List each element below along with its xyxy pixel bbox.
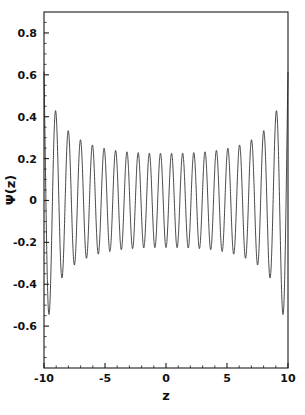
figure-container: 0.80.60.40.20-0.2-0.4-0.6 -10-50510 z Ψ(… (0, 0, 305, 415)
y-tick-label: -0.2 (13, 236, 37, 249)
x-tick-label: 0 (162, 372, 170, 385)
y-tick-label: 0.8 (18, 27, 38, 40)
y-tick-label: 0 (29, 194, 37, 207)
x-tick-label: 10 (280, 372, 296, 385)
y-tick-label: -0.6 (13, 320, 37, 333)
x-tick-label: -10 (34, 372, 54, 385)
x-axis-title: z (162, 388, 170, 403)
y-axis-title: Ψ(z) (3, 175, 18, 206)
x-tick-label: -5 (99, 372, 111, 385)
y-tick-label: 0.4 (18, 111, 38, 124)
y-tick-label: -0.4 (13, 278, 37, 291)
x-tick-label: 5 (223, 372, 231, 385)
wavefunction-plot: 0.80.60.40.20-0.2-0.4-0.6 -10-50510 z Ψ(… (0, 0, 305, 415)
y-tick-label: 0.6 (18, 69, 38, 82)
y-tick-label: 0.2 (18, 153, 38, 166)
